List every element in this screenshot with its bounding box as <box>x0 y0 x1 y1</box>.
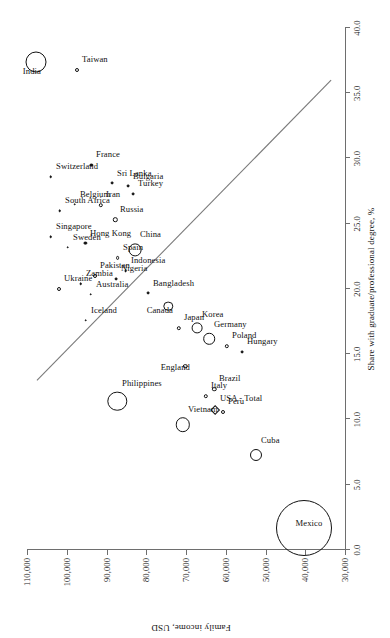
data-point-marker <box>116 256 120 260</box>
data-point-label: Vietnam <box>188 404 218 414</box>
data-point-label: Hungary <box>247 336 278 346</box>
data-point-marker <box>84 242 87 245</box>
data-point-marker <box>66 246 69 249</box>
data-point-label: Russia <box>120 204 144 214</box>
data-point-marker <box>108 392 127 411</box>
data-point-marker <box>111 182 114 185</box>
data-point-label: China <box>140 229 161 239</box>
data-point-marker <box>98 203 102 207</box>
data-point-marker <box>203 333 215 345</box>
data-point-marker <box>115 277 118 280</box>
data-point-marker <box>212 387 216 391</box>
data-point-label: Turkey <box>138 178 163 188</box>
data-point-marker <box>58 209 61 212</box>
data-point-marker <box>147 292 150 295</box>
data-point-label: Indonesia <box>131 255 165 265</box>
data-point-marker <box>113 218 117 222</box>
data-point-marker <box>176 418 190 432</box>
data-point-marker <box>177 326 181 330</box>
data-point-marker <box>241 350 244 353</box>
data-point-label: Peru <box>228 396 244 406</box>
data-point-label: France <box>96 149 120 159</box>
data-point-label: Japan <box>184 312 204 322</box>
data-point-marker <box>131 192 134 195</box>
data-point-marker <box>73 203 76 206</box>
data-point-marker <box>124 269 127 272</box>
scatter-plot-area: 0.05.010.015.020.025.030.035.040.0 30,00… <box>0 0 390 638</box>
data-point-label: Korea <box>202 309 224 319</box>
data-points-layer: IndiaTaiwanSwitzerlandSingaporeSouth Afr… <box>0 0 390 638</box>
data-point-marker <box>129 243 142 256</box>
data-point-label: Singapore <box>56 222 92 232</box>
data-point-label: Iran <box>106 189 120 199</box>
data-point-label: Cuba <box>261 435 280 445</box>
data-point-label: England <box>161 362 190 372</box>
data-point-marker <box>224 344 228 348</box>
data-point-label: Canada <box>147 305 173 315</box>
data-point-marker <box>75 68 79 72</box>
chart-figure: 0.05.010.015.020.025.030.035.040.0 30,00… <box>0 0 390 638</box>
data-point-label: Taiwan <box>82 54 108 64</box>
data-point-marker <box>127 185 130 188</box>
data-point-marker <box>221 410 225 414</box>
data-point-marker <box>191 323 202 334</box>
data-point-label: Germany <box>214 319 247 329</box>
data-point-marker <box>85 319 88 322</box>
data-point-marker <box>250 449 262 461</box>
data-point-marker <box>204 394 208 398</box>
data-point-marker <box>50 236 53 239</box>
data-point-label: Australia <box>96 279 128 289</box>
data-point-marker <box>79 282 82 285</box>
data-point-label: Philippines <box>122 378 162 388</box>
data-point-marker <box>57 287 61 291</box>
data-point-label: India <box>23 66 41 76</box>
data-point-label: Mexico <box>296 518 323 528</box>
data-point-label: Brazil <box>219 373 241 383</box>
data-point-label: Hong Kong <box>90 228 131 238</box>
data-point-marker <box>93 274 97 278</box>
data-point-label: Bangladesh <box>153 278 194 288</box>
data-point-marker <box>89 293 92 296</box>
data-point-label: Iceland <box>91 305 117 315</box>
data-point-marker <box>50 175 53 178</box>
